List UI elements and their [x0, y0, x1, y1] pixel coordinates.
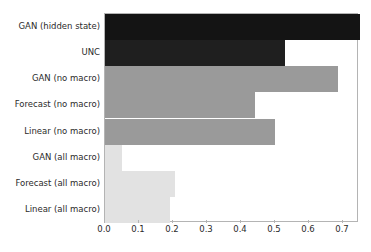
bar: [105, 92, 255, 118]
x-axis-tick-mark: [206, 220, 207, 223]
x-axis-tick-mark: [172, 220, 173, 223]
x-axis-tick-label: 0.3: [199, 224, 213, 234]
y-axis-label: GAN (no macro): [0, 73, 100, 83]
bar-chart: GAN (hidden state)UNCGAN (no macro)Forec…: [0, 0, 371, 252]
bar: [105, 171, 175, 197]
x-axis-tick-mark: [138, 220, 139, 223]
x-axis-tick-label: 0.5: [267, 224, 281, 234]
x-axis-tick-label: 0.2: [165, 224, 179, 234]
x-axis-tick-label: 0.7: [335, 224, 349, 234]
x-axis-tick-mark: [240, 220, 241, 223]
bar-row: [105, 66, 359, 92]
bar-row: [105, 145, 359, 171]
y-axis-label: Forecast (all macro): [0, 178, 100, 188]
bar: [105, 14, 360, 40]
bar-row: [105, 14, 359, 40]
x-axis-tick-label: 0.4: [233, 224, 247, 234]
x-axis-tick-label: 0.1: [131, 224, 145, 234]
y-axis-label: Linear (no macro): [0, 126, 100, 136]
y-axis-label: Forecast (no macro): [0, 99, 100, 109]
x-axis-tick-mark: [274, 220, 275, 223]
plot-area: [104, 13, 358, 222]
x-axis-ticks: 0.00.10.20.30.40.50.60.7: [104, 224, 358, 238]
bar-row: [105, 40, 359, 66]
x-axis-tick-label: 0.6: [301, 224, 315, 234]
x-axis-tick-mark: [308, 220, 309, 223]
y-axis-label: GAN (hidden state): [0, 21, 100, 31]
bar-row: [105, 92, 359, 118]
x-axis-tick-mark: [104, 220, 105, 223]
bar: [105, 119, 275, 145]
bar-row: [105, 171, 359, 197]
y-axis-label: UNC: [0, 47, 100, 57]
bar-row: [105, 119, 359, 145]
y-axis-label: GAN (all macro): [0, 152, 100, 162]
bar: [105, 66, 338, 92]
bar-row: [105, 197, 359, 223]
bar: [105, 40, 285, 66]
x-axis-tick-mark: [342, 220, 343, 223]
bar: [105, 145, 122, 171]
x-axis-tick-label: 0.0: [97, 224, 111, 234]
y-axis-labels: GAN (hidden state)UNCGAN (no macro)Forec…: [0, 13, 100, 222]
y-axis-label: Linear (all macro): [0, 204, 100, 214]
